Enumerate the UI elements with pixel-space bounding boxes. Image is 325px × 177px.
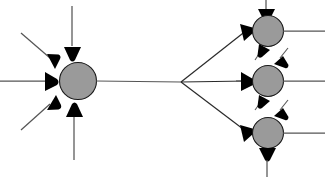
neuron-diagram-figure: Neuronal divergence and convergence sche… <box>0 0 325 177</box>
presynaptic-soma <box>60 63 97 100</box>
postsynaptic-soma-bottom <box>253 118 284 149</box>
neuron-diagram-canvas <box>0 0 325 177</box>
postsynaptic-soma-middle <box>253 66 284 97</box>
postsynaptic-soma-top <box>253 16 284 47</box>
